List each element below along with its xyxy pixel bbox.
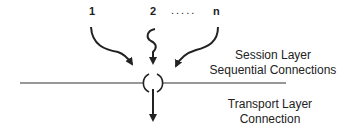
arrow-1 (91, 27, 132, 64)
arrow-2 (148, 29, 156, 63)
input-label-2: 2 (150, 5, 156, 17)
connection-point-right-arc (157, 74, 163, 92)
session-layer-label: Session Layer Sequential Connections (208, 48, 338, 78)
transport-layer-label: Transport Layer Connection (220, 97, 320, 127)
input-ellipsis: ..... (171, 4, 196, 16)
connection-point-left-arc (143, 74, 149, 92)
input-label-1: 1 (89, 5, 95, 17)
input-label-n: n (213, 5, 220, 17)
